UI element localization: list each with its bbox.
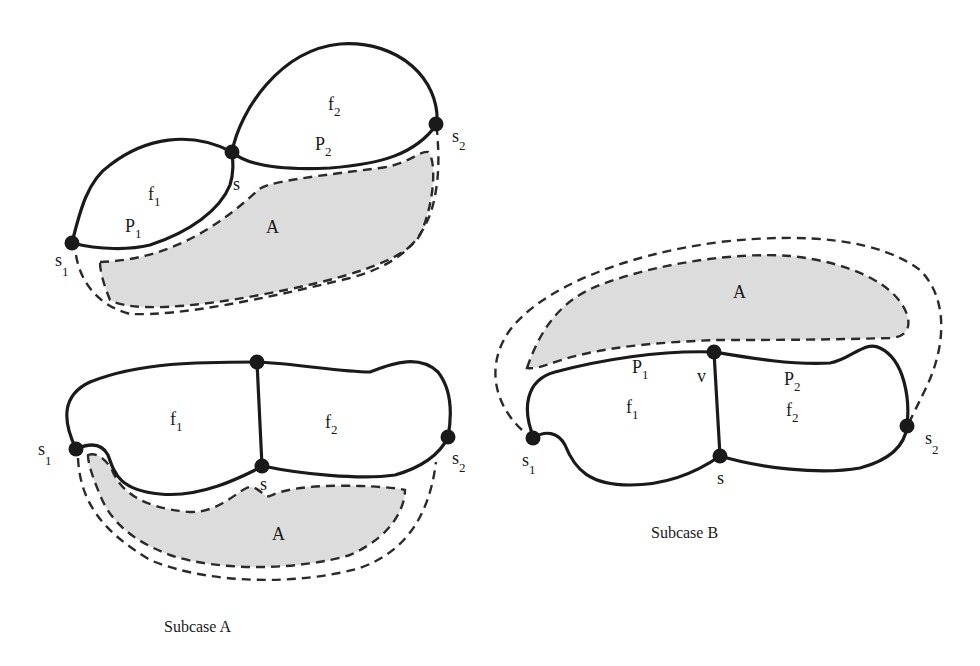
- label-s2: s2: [452, 126, 466, 153]
- figure-top-left: f1 f2 P1 P2 s s1 s2 A: [55, 44, 466, 314]
- label-s2: s2: [452, 448, 466, 475]
- label-f1: f1: [170, 409, 183, 434]
- face-f2-outer-edge: [232, 44, 437, 152]
- label-region-a: A: [272, 524, 285, 544]
- figure-subcase-b: P1 P2 v f1 f2 s s1 s2 A Subcase B: [495, 238, 941, 541]
- label-s: s: [717, 468, 724, 488]
- vertex-s: [713, 449, 728, 464]
- label-s: s: [260, 474, 267, 494]
- label-s1: s1: [55, 250, 69, 279]
- label-region-a: A: [266, 217, 279, 237]
- middle-edge: [714, 352, 720, 456]
- vertex-s: [255, 459, 270, 474]
- vertex-s2: [429, 117, 444, 132]
- label-p2: P2: [784, 369, 801, 394]
- vertex-s2: [441, 430, 456, 445]
- label-s: s: [233, 174, 240, 194]
- label-p1: P1: [125, 216, 142, 241]
- vertex-top: [250, 355, 265, 370]
- figure-subcase-a: f1 f2 s s1 s2 A Subcase A: [38, 355, 466, 636]
- vertex-s1: [69, 442, 84, 457]
- label-p1: P1: [632, 357, 649, 382]
- label-v: v: [697, 366, 706, 386]
- vertex-s1: [526, 431, 541, 446]
- vertex-s2: [900, 419, 915, 434]
- label-s1: s1: [522, 450, 536, 477]
- vertex-s1: [65, 236, 80, 251]
- label-region-a: A: [733, 282, 746, 302]
- label-f2: f2: [328, 94, 341, 119]
- vertex-v: [707, 345, 722, 360]
- label-f1: f1: [148, 184, 161, 209]
- label-f2: f2: [325, 412, 338, 437]
- vertex-s: [225, 145, 240, 160]
- label-p2: P2: [315, 134, 332, 159]
- caption-subcase-a: Subcase A: [164, 618, 232, 635]
- label-s2: s2: [925, 428, 939, 457]
- diagram-canvas: f1 f2 P1 P2 s s1 s2 A f1 f2 s s1 s2 A Su…: [0, 0, 980, 666]
- label-f1: f1: [626, 397, 639, 422]
- label-s1: s1: [38, 439, 52, 468]
- caption-subcase-b: Subcase B: [651, 524, 718, 541]
- middle-edge: [257, 362, 262, 466]
- label-f2: f2: [786, 400, 799, 425]
